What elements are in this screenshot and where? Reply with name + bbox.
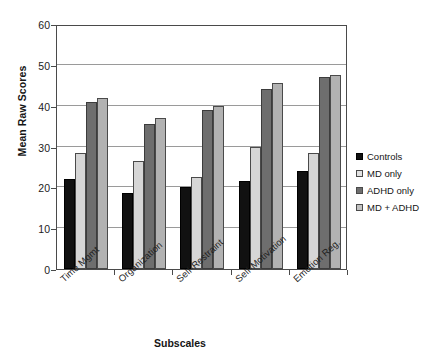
y-tick-mark-10 xyxy=(51,229,56,230)
bar xyxy=(297,171,308,269)
y-tick-label-10: 10 xyxy=(6,224,50,234)
bar xyxy=(239,181,250,269)
legend-label: MD only xyxy=(367,168,402,179)
bar xyxy=(319,77,330,269)
legend-label: MD + ADHD xyxy=(367,202,419,213)
x-tick-mark xyxy=(231,270,232,275)
y-tick-label-30: 30 xyxy=(6,143,50,153)
bar xyxy=(250,147,261,270)
y-tick-label-50: 50 xyxy=(6,61,50,71)
legend-label: ADHD only xyxy=(367,185,414,196)
x-tick-mark xyxy=(289,270,290,275)
x-tick-mark xyxy=(347,270,348,275)
bar xyxy=(180,187,191,269)
legend-item: MD only xyxy=(356,165,439,182)
y-tick-label-40: 40 xyxy=(6,102,50,112)
y-tick-mark-20 xyxy=(51,188,56,189)
legend-label: Controls xyxy=(367,151,402,162)
legend-swatch-icon xyxy=(356,187,363,194)
plot-area xyxy=(56,25,347,270)
y-axis: 0102030405060 xyxy=(0,25,50,270)
chart-legend: ControlsMD onlyADHD onlyMD + ADHD xyxy=(356,148,439,216)
legend-swatch-icon xyxy=(356,153,363,160)
y-tick-mark-60 xyxy=(51,25,56,26)
legend-swatch-icon xyxy=(356,170,363,177)
x-tick-mark xyxy=(172,270,173,275)
y-tick-mark-40 xyxy=(51,107,56,108)
legend-item: MD + ADHD xyxy=(356,199,439,216)
legend-item: Controls xyxy=(356,148,439,165)
y-tick-label-20: 20 xyxy=(6,183,50,193)
legend-item: ADHD only xyxy=(356,182,439,199)
bar xyxy=(64,179,75,269)
y-tick-label-60: 60 xyxy=(6,20,50,30)
y-tick-mark-30 xyxy=(51,148,56,149)
x-axis-title: Subscales xyxy=(0,337,360,349)
bar xyxy=(122,193,133,269)
bar-chart-figure: Mean Raw Scores 0102030405060 Time MgmtO… xyxy=(0,0,439,361)
bar-group xyxy=(57,25,115,269)
y-tick-label-0: 0 xyxy=(6,265,50,275)
bar-group xyxy=(290,25,348,269)
y-tick-mark-0 xyxy=(51,270,56,271)
bar-group xyxy=(173,25,231,269)
x-tick-mark xyxy=(114,270,115,275)
legend-swatch-icon xyxy=(356,204,363,211)
bar-group xyxy=(115,25,173,269)
bar xyxy=(97,98,108,270)
y-tick-mark-50 xyxy=(51,66,56,67)
